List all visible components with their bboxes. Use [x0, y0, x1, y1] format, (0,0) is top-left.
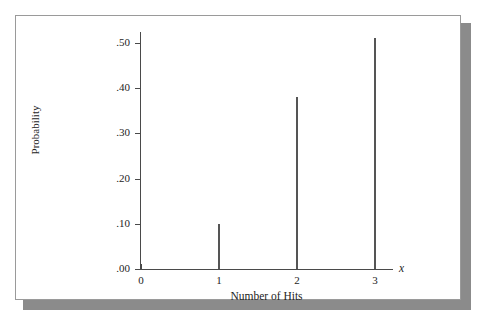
y-tick-label: .50 — [98, 37, 130, 49]
figure-container: .50 .40 .30 .20 .10 .00 0 1 — [15, 15, 463, 302]
y-tick-label-text: .30 — [100, 127, 130, 138]
x-axis-title: Number of Hits — [140, 290, 393, 302]
y-tick-label-text: .00 — [100, 263, 130, 274]
data-bar-x1 — [218, 224, 220, 269]
x-tick-label: 3 — [365, 274, 385, 286]
y-tick-mark — [135, 43, 141, 44]
x-tick-mark — [141, 264, 142, 270]
x-axis-line — [140, 269, 393, 270]
data-bar-x2 — [296, 97, 298, 269]
y-tick-label: .20 — [98, 173, 130, 185]
data-bar-x3 — [374, 38, 376, 269]
x-tick-label: 0 — [131, 274, 151, 286]
y-tick-mark — [135, 133, 141, 134]
y-tick-label: .10 — [98, 218, 130, 230]
y-tick-label: .30 — [98, 127, 130, 139]
y-tick-mark — [135, 88, 141, 89]
figure-frame: .50 .40 .30 .20 .10 .00 0 1 — [15, 15, 461, 300]
y-tick-label: .00 — [98, 263, 130, 275]
y-tick-label-text: .20 — [100, 173, 130, 184]
x-variable-label: x — [399, 262, 404, 274]
x-tick-label: 1 — [209, 274, 229, 286]
y-tick-label-text: .40 — [100, 82, 130, 93]
y-tick-mark — [135, 224, 141, 225]
plot-area: .50 .40 .30 .20 .10 .00 0 1 — [16, 16, 462, 301]
y-axis-title: Probability — [29, 85, 41, 175]
y-tick-mark — [135, 179, 141, 180]
y-tick-label: .40 — [98, 82, 130, 94]
y-axis-line — [140, 32, 141, 270]
y-tick-label-text: .50 — [100, 37, 130, 48]
y-tick-label-text: .10 — [100, 218, 130, 229]
x-tick-label: 2 — [287, 274, 307, 286]
